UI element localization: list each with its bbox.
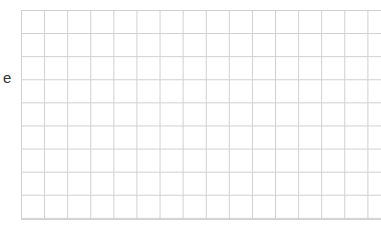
truncated-label-text: e — [3, 70, 11, 85]
grid-canvas — [21, 10, 381, 220]
